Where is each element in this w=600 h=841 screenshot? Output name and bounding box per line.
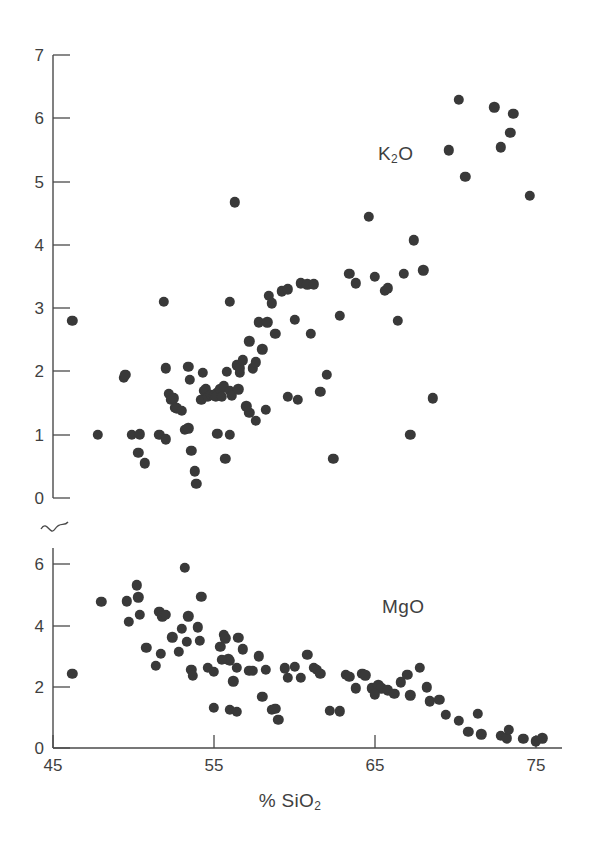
lower-ytick-label-4: 4 <box>35 618 44 635</box>
lower-ytick-label-6: 6 <box>35 556 44 573</box>
x-axis-title-subscript: 2 <box>314 799 321 813</box>
lower-ytick-label-0: 0 <box>35 740 44 757</box>
upper-ytick-label-4: 4 <box>35 237 44 254</box>
x-axis-title: % SiO2 <box>259 790 321 812</box>
axis-lines <box>0 0 600 841</box>
scatter-figure: 7 6 5 4 3 2 1 0 6 4 2 0 45 55 65 75 % Si… <box>0 0 600 841</box>
x-axis-title-main: % SiO <box>259 790 314 811</box>
lower-ytick-label-2: 2 <box>35 679 44 696</box>
xtick-label-75: 75 <box>527 757 546 774</box>
upper-ytick-label-6: 6 <box>35 110 44 127</box>
upper-ytick-label-2: 2 <box>35 363 44 380</box>
upper-ytick-label-5: 5 <box>35 174 44 191</box>
xtick-label-45: 45 <box>44 757 63 774</box>
upper-ytick-label-0: 0 <box>35 490 44 507</box>
series-label-k2o: K2O <box>378 143 413 165</box>
upper-ytick-label-1: 1 <box>35 427 44 444</box>
k2o-label-main: K <box>378 143 391 164</box>
series-label-mgo: MgO <box>382 596 424 618</box>
axis-break-squiggle <box>41 522 68 531</box>
plot-area: 7 6 5 4 3 2 1 0 6 4 2 0 45 55 65 75 % Si… <box>0 0 600 841</box>
lower-y-ticks <box>53 564 70 748</box>
x-ticks <box>53 735 536 748</box>
xtick-label-65: 65 <box>366 757 385 774</box>
k2o-label-subscript: 2 <box>391 152 398 166</box>
xtick-label-55: 55 <box>205 757 224 774</box>
upper-ytick-label-7: 7 <box>35 47 44 64</box>
upper-ytick-label-3: 3 <box>35 300 44 317</box>
upper-y-ticks <box>53 55 70 498</box>
k2o-label-tail: O <box>398 143 413 164</box>
